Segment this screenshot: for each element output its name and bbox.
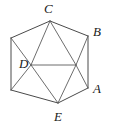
vertex-label-b: B bbox=[93, 25, 101, 38]
vertex-label-c: C bbox=[44, 2, 53, 15]
edge-c-b bbox=[50, 21, 88, 36]
chord-p-e bbox=[58, 65, 76, 103]
edge-a-e bbox=[58, 88, 88, 103]
chord-b-p bbox=[76, 36, 88, 65]
vertex-label-e: E bbox=[54, 110, 62, 123]
geometry-figure: CBAED bbox=[0, 0, 115, 129]
vertex-label-a: A bbox=[93, 82, 101, 95]
chord-p-a bbox=[76, 65, 88, 88]
edge-e-v5 bbox=[11, 90, 58, 103]
chord-c-p bbox=[50, 21, 76, 65]
chord-d-e bbox=[31, 65, 58, 103]
vertex-label-d: D bbox=[19, 57, 28, 70]
